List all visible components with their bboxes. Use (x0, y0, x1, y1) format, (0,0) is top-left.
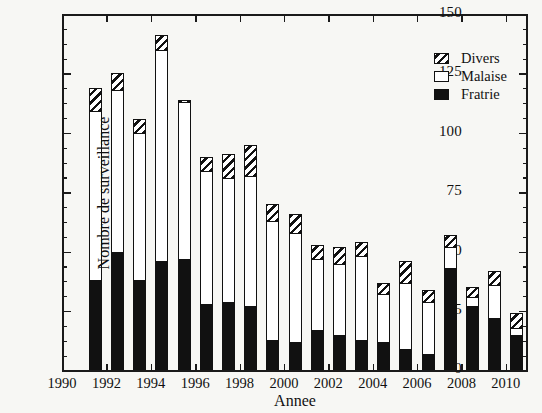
y-tick-minor (523, 103, 528, 104)
bar-segment-divers (333, 247, 346, 264)
bar-segment-malaise (399, 283, 412, 350)
bar-stack (444, 235, 457, 370)
bar-segment-malaise (266, 221, 279, 340)
y-tick-major (62, 192, 71, 193)
bar-segment-divers (377, 283, 390, 295)
bar-segment-malaise (200, 171, 213, 304)
x-tick-major-top (195, 14, 196, 22)
x-tick-major-top (240, 14, 241, 22)
y-tick-minor (523, 266, 528, 267)
y-tick-minor (62, 103, 67, 104)
bar-segment-malaise (355, 256, 368, 339)
y-tick-minor (523, 88, 528, 89)
y-tick-minor (523, 29, 528, 30)
bar-segment-malaise (510, 328, 523, 335)
y-tick-minor (62, 118, 67, 119)
bar-segment-malaise (289, 233, 302, 342)
y-tick-major (519, 370, 528, 371)
bar-stack (510, 313, 523, 370)
y-tick-minor (62, 356, 67, 357)
y-tick-minor (62, 237, 67, 238)
y-tick-label: 100 (439, 123, 462, 140)
bar-segment-fratrie (444, 268, 457, 370)
y-tick-major (62, 311, 71, 312)
x-tick-label: 2010 (480, 375, 532, 392)
y-tick-major (519, 192, 528, 193)
bar-segment-malaise (466, 297, 479, 307)
bar-stack (355, 242, 368, 370)
bar-segment-divers (466, 287, 479, 297)
x-tick-major-top (328, 14, 329, 22)
y-tick-minor (62, 163, 67, 164)
y-tick-major (519, 311, 528, 312)
y-tick-major (519, 133, 528, 134)
bar-segment-malaise (155, 50, 168, 261)
y-tick-minor (523, 281, 528, 282)
bar-segment-divers (355, 242, 368, 256)
y-tick-minor (523, 296, 528, 297)
y-tick-major (519, 14, 528, 15)
bar-segment-malaise (178, 102, 191, 259)
y-tick-minor (523, 177, 528, 178)
bar-stack (289, 214, 302, 371)
legend-item: Malaise (434, 68, 507, 85)
x-tick-major (417, 364, 418, 372)
y-tick-major (62, 133, 71, 134)
bar-segment-malaise (422, 302, 435, 354)
bar-segment-fratrie (133, 280, 146, 370)
y-axis-title: Nombre de surveillance (95, 117, 113, 270)
y-tick-major (519, 73, 528, 74)
x-tick-major-top (106, 14, 107, 22)
bar-segment-fratrie (488, 318, 501, 370)
x-tick-major-top (417, 14, 418, 22)
bar-segment-malaise (133, 133, 146, 280)
bar-segment-divers (244, 145, 257, 176)
bar-segment-divers (133, 119, 146, 133)
y-tick-minor (523, 222, 528, 223)
bar-segment-fratrie (422, 354, 435, 371)
bar-segment-fratrie (266, 340, 279, 371)
bar-segment-divers (222, 154, 235, 178)
y-tick-major (62, 73, 71, 74)
bar-stack (333, 247, 346, 371)
bar-segment-fratrie (222, 302, 235, 371)
bar-segment-fratrie (200, 304, 213, 371)
legend-label: Malaise (461, 68, 507, 85)
x-tick-major (373, 364, 374, 372)
bar-stack (133, 119, 146, 371)
bar-segment-fratrie (333, 335, 346, 371)
y-tick-minor (523, 163, 528, 164)
bar-segment-fratrie (178, 259, 191, 371)
plot-area: 0255075100125150 19901992199419961998200… (62, 14, 528, 372)
x-tick-major (62, 364, 63, 372)
bar-segment-divers (488, 271, 501, 285)
x-tick-major (461, 364, 462, 372)
y-tick-minor (62, 341, 67, 342)
bar-stack (244, 145, 257, 371)
bar-stack (377, 283, 390, 371)
bar-stack (399, 261, 412, 370)
open-swatch-icon (434, 71, 449, 82)
y-tick-label: 75 (447, 182, 462, 199)
bar-segment-divers (311, 245, 324, 259)
x-tick-major-top (373, 14, 374, 22)
y-tick-minor (523, 356, 528, 357)
bar-segment-fratrie (311, 330, 324, 370)
chart-legend: DiversMalaiseFratrie (434, 50, 507, 104)
x-tick-major (284, 364, 285, 372)
y-tick-minor (62, 88, 67, 89)
x-tick-major (240, 364, 241, 372)
x-tick-major-top (151, 14, 152, 22)
bar-segment-fratrie (289, 342, 302, 371)
y-tick-minor (62, 148, 67, 149)
bar-stack (222, 154, 235, 370)
y-tick-minor (523, 207, 528, 208)
y-tick-minor (62, 44, 67, 45)
bar-segment-malaise (488, 285, 501, 318)
bar-stack (200, 157, 213, 371)
y-tick-minor (62, 59, 67, 60)
bar-stack (422, 290, 435, 371)
y-tick-minor (523, 59, 528, 60)
x-tick-major (195, 364, 196, 372)
x-tick-major-top (461, 14, 462, 22)
